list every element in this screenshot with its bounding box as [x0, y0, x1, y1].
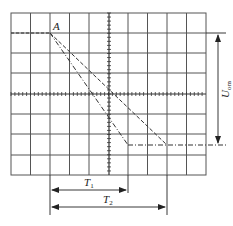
- voltage-label: Uom: [219, 81, 233, 98]
- voltage-dimension: [206, 33, 226, 143]
- t1-label: T1: [84, 176, 94, 190]
- oscilloscope-diagram: A Uom T1 T2: [0, 0, 233, 226]
- point-a-label: A: [52, 20, 60, 32]
- t2-label: T2: [103, 193, 113, 207]
- waveform-traces: [11, 33, 226, 145]
- axis-ticks: [11, 13, 202, 171]
